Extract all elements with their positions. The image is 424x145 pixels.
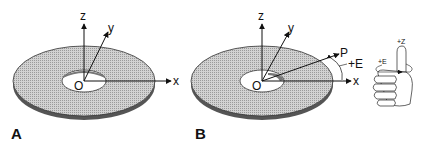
- hand-curl-label: +E: [378, 58, 387, 65]
- hand-thumb-label: +Z: [397, 38, 406, 45]
- panel-label-b: B: [195, 125, 206, 142]
- y-axis-label-b: y: [288, 21, 294, 35]
- origin-label-b: O: [252, 79, 261, 93]
- x-axis-label-a: x: [173, 74, 179, 88]
- origin-label-a: O: [74, 79, 83, 93]
- panel-b: z y x O P +E B +Z +E: [191, 9, 412, 142]
- x-axis-label-b: x: [353, 74, 359, 88]
- z-axis-label-a: z: [80, 9, 86, 23]
- right-hand-icon: [373, 46, 412, 106]
- panel-a: z y x O A: [11, 9, 179, 142]
- vector-p-label: P: [340, 46, 348, 60]
- figure: z y x O A z y x O P +E B: [0, 0, 424, 145]
- panel-label-a: A: [11, 125, 22, 142]
- angle-label: +E: [348, 57, 363, 71]
- z-axis-label-b: z: [258, 9, 264, 23]
- y-axis-label-a: y: [108, 21, 114, 35]
